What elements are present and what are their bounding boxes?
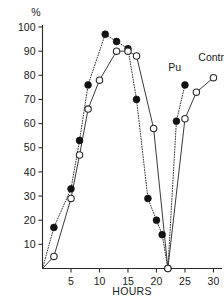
data-point-contr-12 — [193, 89, 199, 95]
x-tick-label-5: 5 — [68, 275, 74, 287]
data-point-contr-9 — [150, 125, 156, 131]
series-markers-group — [51, 31, 217, 272]
y-tick-label-40: 40 — [24, 166, 36, 178]
data-point-contr-11 — [182, 116, 188, 122]
y-axis-ticks — [39, 27, 43, 244]
data-point-pu-9 — [145, 195, 152, 202]
chart-container: 102030405060708090100 51015202530 % HOUR… — [0, 0, 224, 303]
data-point-contr-8 — [133, 53, 139, 59]
data-point-contr-6 — [113, 48, 119, 54]
y-tick-label-100: 100 — [18, 21, 36, 33]
data-point-pu-13 — [173, 118, 180, 125]
data-point-pu-10 — [153, 217, 160, 224]
x-axis-ticks — [71, 269, 213, 273]
data-point-pu-5 — [102, 31, 109, 38]
data-point-pu-11 — [159, 231, 166, 238]
data-point-contr-7 — [125, 48, 131, 54]
line-chart: 102030405060708090100 51015202530 % HOUR… — [0, 0, 224, 303]
data-point-contr-10 — [165, 265, 171, 271]
y-tick-label-10: 10 — [24, 238, 36, 250]
data-point-contr-4 — [85, 106, 91, 112]
x-tick-label-30: 30 — [208, 275, 220, 287]
data-point-contr-5 — [96, 77, 102, 83]
data-point-pu-1 — [51, 224, 58, 231]
data-point-contr-2 — [68, 195, 74, 201]
x-tick-label-10: 10 — [94, 275, 106, 287]
x-tick-label-25: 25 — [179, 275, 191, 287]
data-point-pu-3 — [76, 137, 83, 144]
y-axis-unit-label: % — [31, 6, 40, 18]
data-point-contr-1 — [51, 253, 57, 259]
data-point-pu-8 — [133, 96, 140, 103]
y-tick-label-70: 70 — [24, 93, 36, 105]
data-point-pu-4 — [85, 82, 92, 89]
series-label-contr: Contr — [198, 51, 224, 63]
data-point-pu-6 — [113, 38, 120, 45]
y-axis-tick-labels: 102030405060708090100 — [18, 21, 36, 250]
y-tick-label-50: 50 — [24, 141, 36, 153]
data-point-pu-2 — [68, 185, 75, 192]
data-point-contr-3 — [76, 152, 82, 158]
y-tick-label-20: 20 — [24, 214, 36, 226]
y-tick-label-90: 90 — [24, 45, 36, 57]
series-label-pu: Pu — [168, 61, 181, 73]
data-point-contr-13 — [210, 75, 216, 81]
y-tick-label-60: 60 — [24, 117, 36, 129]
x-tick-label-20: 20 — [151, 275, 163, 287]
series-lines-group — [43, 34, 214, 268]
y-tick-label-30: 30 — [24, 190, 36, 202]
y-tick-label-80: 80 — [24, 69, 36, 81]
data-point-pu-14 — [182, 82, 189, 89]
x-axis-title: HOURS — [112, 285, 151, 297]
